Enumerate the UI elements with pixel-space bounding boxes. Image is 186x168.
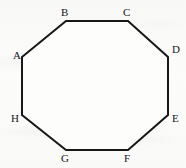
octagon-drawing — [0, 0, 186, 168]
vertex-label-d: D — [172, 44, 180, 55]
vertex-label-e: E — [172, 113, 179, 124]
vertex-label-g: G — [61, 153, 69, 164]
octagon-outline — [22, 21, 168, 150]
vertex-label-f: F — [124, 153, 130, 164]
vertex-label-h: H — [11, 113, 19, 124]
octagon-figure: A B C D E F G H — [0, 0, 186, 168]
vertex-label-b: B — [61, 7, 68, 18]
vertex-label-c: C — [123, 7, 130, 18]
vertex-label-a: A — [13, 50, 21, 61]
